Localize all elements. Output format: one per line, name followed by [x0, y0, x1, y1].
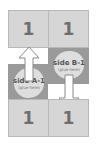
side-a-note: (glue here): [18, 85, 40, 90]
panel-top-left: 1: [8, 10, 49, 48]
side-b-title: side B-1: [53, 59, 85, 67]
panel-bottom-left: 1: [8, 99, 49, 137]
side-b-note: (glue here): [58, 67, 80, 72]
fold-diagram: 1 1 side A-1 (glue here) side B-1 (glue …: [8, 10, 89, 137]
panel-number: 1: [23, 19, 35, 39]
panel-number: 1: [63, 108, 75, 128]
panel-number: 1: [63, 19, 75, 39]
panel-top-right: 1: [48, 10, 89, 48]
panel-bottom-right: 1: [48, 99, 89, 137]
panel-number: 1: [23, 108, 35, 128]
arrow-up-icon: [18, 46, 40, 82]
